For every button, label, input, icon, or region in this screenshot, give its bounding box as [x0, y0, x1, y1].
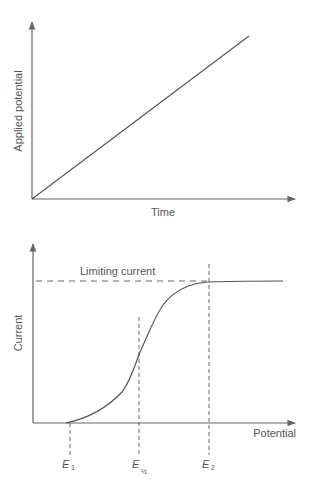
diagram-canvas: Time Applied potential Limiting current … — [0, 0, 312, 500]
limiting-current-label: Limiting current — [80, 265, 155, 277]
bottom-y-axis-label: Current — [12, 315, 24, 352]
bottom-chart: Limiting current Potential Current E 1 E… — [12, 244, 296, 475]
e-half-sub: ½ — [141, 468, 147, 475]
bottom-x-axis-label: Potential — [253, 427, 296, 439]
e-half-label: E ½ — [132, 458, 147, 475]
e1-main: E — [62, 458, 70, 470]
e1-sub: 1 — [71, 464, 75, 471]
e2-sub: 2 — [211, 464, 215, 471]
e2-main: E — [202, 458, 210, 470]
top-chart: Time Applied potential — [12, 22, 295, 218]
e-half-main: E — [132, 458, 140, 470]
top-y-axis-label: Applied potential — [12, 70, 24, 151]
potential-ramp-line — [32, 36, 249, 199]
e1-label: E 1 — [62, 458, 75, 471]
top-x-axis-label: Time — [151, 206, 175, 218]
current-potential-curve — [66, 281, 283, 423]
e2-label: E 2 — [202, 458, 215, 471]
